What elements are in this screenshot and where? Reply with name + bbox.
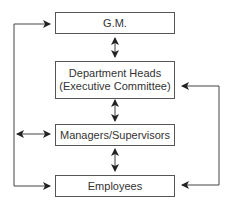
node-dept-label-line1: Department Heads bbox=[69, 67, 161, 80]
org-communication-diagram: G.M. Department Heads (Executive Committ… bbox=[0, 0, 232, 206]
node-emp-label: Employees bbox=[88, 180, 142, 193]
node-dept-label-line2: (Executive Committee) bbox=[59, 80, 170, 93]
node-department-heads: Department Heads (Executive Committee) bbox=[55, 61, 175, 99]
node-managers-supervisors: Managers/Supervisors bbox=[55, 124, 175, 146]
node-gm: G.M. bbox=[55, 12, 175, 34]
node-gm-label: G.M. bbox=[103, 17, 127, 30]
node-mgr-label: Managers/Supervisors bbox=[60, 129, 170, 142]
node-employees: Employees bbox=[55, 175, 175, 197]
